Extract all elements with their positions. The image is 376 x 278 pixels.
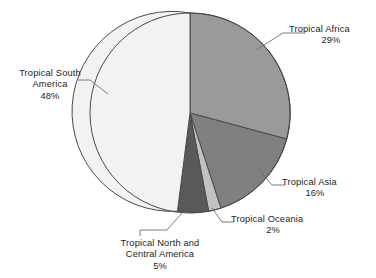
slice-label-tropical-africa: Tropical Africa 29% bbox=[289, 24, 373, 47]
slice-label-name: Tropical Oceania bbox=[231, 214, 303, 224]
slice-label-name-line1: Tropical North and bbox=[121, 238, 200, 248]
slice-label-tropical-north-and-central-america: Tropical North and Central America 5% bbox=[104, 238, 216, 272]
pie-chart: Tropical Africa 29% Tropical South Ameri… bbox=[0, 0, 376, 278]
slice-label-percent: 2% bbox=[231, 225, 315, 236]
slice-label-name: Tropical Africa bbox=[289, 24, 350, 34]
slice-label-tropical-asia: Tropical Asia 16% bbox=[282, 177, 348, 200]
slice-label-name: Tropical Asia bbox=[282, 177, 337, 187]
slice-label-percent: 5% bbox=[104, 261, 216, 272]
leader-line-tropical-north-and-central-america bbox=[140, 213, 182, 236]
slice-label-name-line1: Tropical South bbox=[19, 68, 81, 78]
slice-label-percent: 16% bbox=[282, 188, 348, 199]
slice-label-tropical-oceania: Tropical Oceania 2% bbox=[231, 214, 315, 237]
slice-label-percent: 29% bbox=[289, 35, 373, 46]
slice-label-percent: 48% bbox=[8, 91, 92, 102]
slice-label-name-line2: America bbox=[32, 79, 67, 89]
slice-label-name-line2: Central America bbox=[126, 249, 194, 259]
slice-label-tropical-south-america: Tropical South America 48% bbox=[8, 68, 92, 102]
